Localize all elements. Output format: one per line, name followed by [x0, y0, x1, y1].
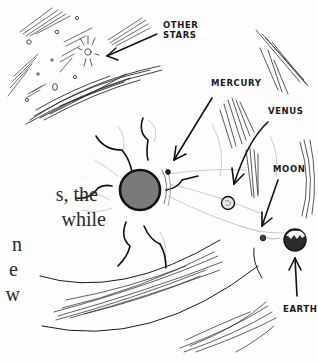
sky-streaks	[26, 66, 162, 124]
body-text-fragment: s, the while n e w	[0, 182, 110, 307]
body-text-line: while	[0, 207, 106, 232]
earth-arrow	[289, 258, 301, 296]
mercury-planet	[166, 170, 171, 175]
label-earth: EARTH	[283, 304, 317, 314]
moon-planet	[260, 235, 266, 241]
body-text-line: s, the	[0, 182, 98, 207]
background-stars	[26, 16, 79, 101]
star-field-hatching	[8, 8, 150, 98]
sun	[120, 168, 171, 210]
label-mercury: MERCURY	[211, 78, 261, 88]
label-venus: VENUS	[268, 106, 304, 116]
label-other-stars-line2: STARS	[163, 30, 197, 40]
body-text-line: w	[0, 282, 20, 307]
venus-planet	[222, 197, 235, 210]
moon-arrow	[262, 180, 278, 226]
body-text-line: e	[0, 257, 18, 282]
mercury-arrow	[174, 98, 212, 160]
highlighted-star-icon	[78, 36, 99, 66]
label-other-stars: OTHER STARS	[163, 20, 199, 40]
right-hatching	[220, 30, 315, 218]
earth-planet	[284, 229, 306, 251]
label-other-stars-line1: OTHER	[163, 20, 199, 30]
body-text-line: n	[0, 232, 22, 257]
label-moon: MOON	[273, 164, 305, 174]
book-page: OTHER STARS MERCURY VENUS MOON EARTH s, …	[0, 0, 318, 363]
faint-lines	[80, 120, 300, 262]
